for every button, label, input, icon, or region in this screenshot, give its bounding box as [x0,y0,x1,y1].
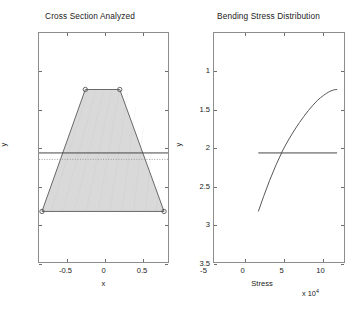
cross-section-trapezoid [42,90,164,212]
x-axis-label-left: x [102,279,106,288]
stress-curve [258,90,337,212]
cross-section-plot [39,33,168,262]
y-tick-label: 1.5 [180,104,210,113]
matlab-figure: Cross Section Analyzed y 1 1.5 2 2.5 3 3… [0,0,357,310]
x-tick-label: 0.5 [137,266,148,275]
bending-stress-plot [214,33,344,262]
panel-cross-section: Cross Section Analyzed y 1 1.5 2 2.5 3 3… [0,0,180,310]
x-tick-label: 10 [316,266,324,275]
chart-title-bending-stress: Bending Stress Distribution [180,11,357,21]
tick-mark [39,264,42,265]
x-tick-label: 0 [240,266,244,275]
x-tick-label: -5 [200,266,207,275]
x-tick-label: -0.5 [59,266,72,275]
axes-bending-stress [213,32,345,263]
tick-mark [214,264,217,265]
exponent-value: 4 [316,288,319,294]
y-tick-label: 1 [180,66,210,75]
x-axis-label-right: Stress [251,279,273,288]
y-axis-label-left: y [0,143,8,147]
y-tick-label: 2 [180,143,210,152]
x-axis-exponent-label: x 104 [302,288,319,298]
axes-cross-section [38,32,169,263]
tick-mark [341,264,344,265]
panel-bending-stress: Bending Stress Distribution y 1 1.5 2 2.… [180,0,357,310]
y-tick-label: 3 [180,220,210,229]
chart-title-cross-section: Cross Section Analyzed [0,11,180,21]
x-tick-label: 0 [101,266,105,275]
x-tick-label: 5 [279,266,283,275]
exponent-prefix: x 10 [302,289,316,298]
tick-mark [165,264,168,265]
y-tick-label: 2.5 [180,181,210,190]
